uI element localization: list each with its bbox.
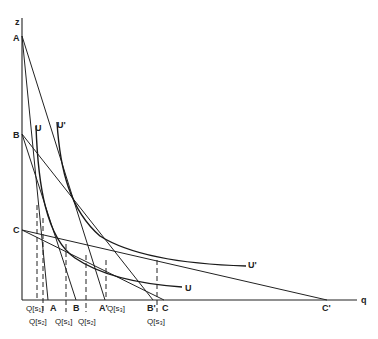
quantity-label-qs1-low: Q[s₁] — [55, 317, 72, 326]
quantity-label-qs3-low: Q[s₃] — [147, 317, 165, 326]
z-axis-label: z — [15, 17, 20, 27]
budget-line-a-a — [22, 36, 48, 300]
curve-label-u-end: U — [185, 283, 192, 293]
curve-label-u-prime-end: U' — [248, 260, 257, 270]
budget-line-b-b-prime — [22, 134, 153, 300]
budget-line-c-c-prime — [22, 230, 327, 300]
intercept-label-c: C — [13, 225, 20, 235]
curve-label-u-prime-top: U' — [57, 120, 66, 130]
curve-label-u-top: U — [35, 123, 42, 133]
intercept-label-b: B — [13, 130, 20, 140]
quantity-label-qs1-top: Q[s₁] — [26, 304, 43, 313]
quantity-label-qs3-top: Q[s₃] — [107, 304, 125, 313]
quantity-label-qs2-mid: Q[s₂] — [78, 317, 96, 326]
q-axis-label: q — [361, 295, 367, 305]
intercept-label-a-end: A — [50, 303, 57, 313]
quantity-label-qs2-low: Q[s₂] — [29, 317, 47, 326]
intercept-label-b-end: B — [73, 303, 80, 313]
intercept-label-c-end: C — [162, 303, 169, 313]
intercept-label-a: A — [13, 33, 20, 43]
budget-line-c-c — [22, 230, 164, 300]
intercept-label-b-prime: B' — [147, 303, 156, 313]
consumer-choice-diagram: z q A B C U U' U U' A B A' B' C C' Q[s₁]… — [0, 0, 378, 339]
intercept-label-c-prime: C' — [322, 303, 331, 313]
